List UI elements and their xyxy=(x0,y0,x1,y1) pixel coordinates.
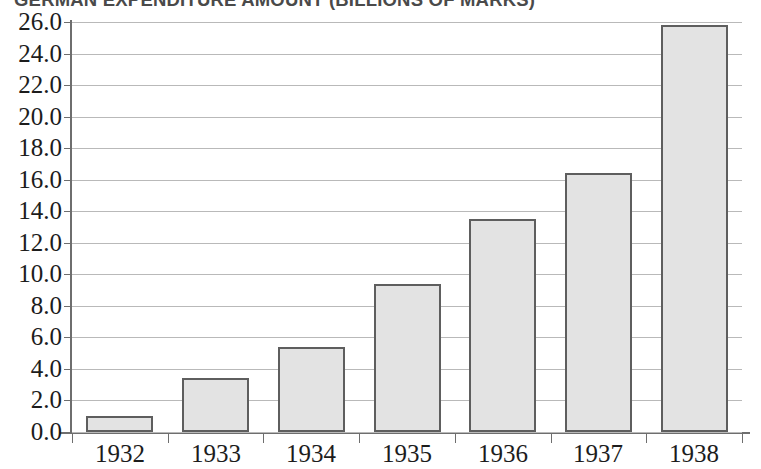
y-axis-tick-label: 24.0 xyxy=(4,41,62,66)
x-axis-tick-label: 1933 xyxy=(166,440,266,467)
y-axis-tick-mark xyxy=(64,243,72,244)
y-axis-tick-mark xyxy=(64,337,72,338)
y-axis-tick-label: 12.0 xyxy=(4,230,62,255)
y-axis-tick-mark xyxy=(64,148,72,149)
y-axis-tick-label: 18.0 xyxy=(4,135,62,160)
y-axis-tick-label: 14.0 xyxy=(4,198,62,223)
y-axis-tick-mark xyxy=(64,22,72,23)
x-axis-tick-label: 1938 xyxy=(644,440,744,467)
y-axis-tick-label: 4.0 xyxy=(4,356,62,381)
y-axis-tick-mark xyxy=(64,369,72,370)
plot-area xyxy=(72,22,742,432)
bar[interactable] xyxy=(565,173,632,432)
y-axis-tick-mark xyxy=(64,117,72,118)
y-axis-tick-label: 0.0 xyxy=(4,419,62,444)
y-axis-tick-mark xyxy=(64,274,72,275)
y-axis-tick-mark xyxy=(64,400,72,401)
y-axis-tick-mark xyxy=(64,211,72,212)
gridline xyxy=(72,432,742,433)
y-axis-tick-label: 6.0 xyxy=(4,324,62,349)
y-axis-tick-label: 26.0 xyxy=(4,9,62,34)
y-axis-tick-label: 8.0 xyxy=(4,293,62,318)
y-axis-tick-mark xyxy=(64,54,72,55)
y-axis-tick-mark xyxy=(64,85,72,86)
bar[interactable] xyxy=(86,416,153,432)
x-axis-tick-label: 1937 xyxy=(548,440,648,467)
y-axis-tick-label: 20.0 xyxy=(4,104,62,129)
y-axis-tick-mark xyxy=(64,432,72,433)
bar-chart: GERMAN EXPENDITURE AMOUNT (BILLIONS OF M… xyxy=(0,0,761,469)
y-axis-tick-label: 22.0 xyxy=(4,72,62,97)
bar[interactable] xyxy=(182,378,249,432)
bar[interactable] xyxy=(469,219,536,432)
x-axis-tick-label: 1934 xyxy=(261,440,361,467)
bar[interactable] xyxy=(661,25,728,432)
y-axis-tick-label: 10.0 xyxy=(4,261,62,286)
y-axis-tick-mark xyxy=(64,306,72,307)
y-axis-tick-mark xyxy=(64,180,72,181)
y-axis-tick-label: 16.0 xyxy=(4,167,62,192)
x-axis-tick-label: 1932 xyxy=(70,440,170,467)
bar[interactable] xyxy=(374,284,441,432)
x-axis-tick-label: 1935 xyxy=(357,440,457,467)
y-axis-tick-labels: 0.02.04.06.08.010.012.014.016.018.020.02… xyxy=(0,0,62,410)
bar[interactable] xyxy=(278,347,345,432)
y-axis-tick-label: 2.0 xyxy=(4,387,62,412)
x-axis-tick-label: 1936 xyxy=(453,440,553,467)
chart-title: GERMAN EXPENDITURE AMOUNT (BILLIONS OF M… xyxy=(14,0,754,11)
